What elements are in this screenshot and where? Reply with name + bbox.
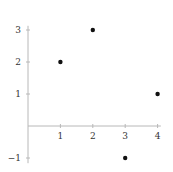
data-point: [155, 92, 159, 96]
x-tick-label: 2: [90, 131, 96, 141]
x-tick-label: 3: [122, 131, 128, 141]
data-point: [58, 60, 62, 64]
x-axis-ticks: 1234: [58, 124, 161, 141]
data-point: [91, 28, 95, 32]
data-point: [123, 156, 127, 160]
y-tick-label: 3: [15, 25, 21, 35]
axes: [28, 26, 161, 163]
y-tick-label: −1: [8, 153, 21, 163]
x-tick-label: 4: [155, 131, 161, 141]
y-tick-label: 1: [15, 89, 21, 99]
scatter-chart: 1234 321−1: [0, 0, 173, 172]
y-tick-label: 2: [15, 57, 21, 67]
y-axis-ticks: 321−1: [8, 25, 30, 163]
x-tick-label: 1: [58, 131, 64, 141]
data-points: [58, 28, 160, 160]
